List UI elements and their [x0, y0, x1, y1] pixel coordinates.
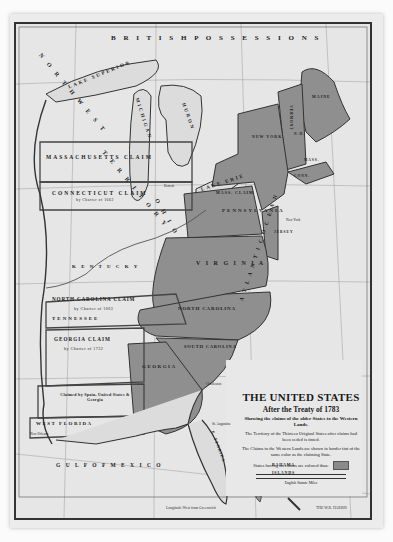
- label-massachusetts: MASS.: [304, 158, 320, 162]
- label-maine: MAINE: [312, 94, 331, 99]
- label-charleston: Charleston: [206, 382, 221, 386]
- legend-note-1: The Territory of the Thirteen Original S…: [242, 431, 360, 443]
- label-south-carolina: SOUTH CAROLINA: [184, 344, 237, 349]
- label-north-carolina: NORTH CAROLINA: [178, 306, 236, 311]
- label-detroit: Detroit: [164, 184, 174, 188]
- label-kentucky: K E N T U C K Y: [72, 264, 139, 269]
- label-gulf-of-mexico: G U L F O F M E X I C O: [56, 462, 163, 468]
- label-connecticut-claim: CONNECTICUT CLAIM: [52, 190, 147, 196]
- map-title: THE UNITED STATES: [242, 391, 360, 403]
- publisher-mark: THE W.R. HARRIS: [316, 506, 347, 510]
- label-connecticut: CONN.: [294, 174, 310, 178]
- map-legend: THE UNITED STATES After the Treaty of 17…: [242, 391, 360, 485]
- mississippi-river: [34, 100, 52, 444]
- label-connecticut-charter: by Charter of 1662: [76, 198, 114, 202]
- label-british-possessions: B R I T I S H P O S S E S S I O N S: [111, 34, 321, 42]
- scale-label: English Statute Miles: [242, 481, 360, 485]
- map-frame: B R I T I S H P O S S E S S I O N S LAKE…: [14, 22, 372, 520]
- label-west-florida: WEST FLORIDA: [36, 421, 93, 426]
- map-description: Showing the claims of the older States t…: [242, 416, 360, 428]
- scale-bar: [256, 474, 346, 479]
- label-massachusetts-claim: MASSACHUSETTS CLAIM: [46, 154, 153, 160]
- label-pennsylvania: PENNSYLVANIA: [222, 208, 285, 213]
- longitude-label: Longitude West from Greenwich: [166, 506, 216, 510]
- label-new-orleans: New Orleans: [30, 432, 48, 436]
- label-new-hampshire: N.H.: [294, 132, 305, 136]
- map-subtitle: After the Treaty of 1783: [242, 405, 360, 414]
- label-georgia: GEORGIA: [142, 364, 177, 369]
- label-claimed-by-spain: Claimed by Spain, United States & Georgi…: [60, 392, 130, 402]
- label-new-york-city: New York: [286, 218, 300, 222]
- label-vermont: VERMONT: [289, 105, 293, 130]
- label-north-carolina-claim: NORTH CAROLINA CLAIM: [52, 296, 135, 302]
- label-new-york: NEW YORK: [252, 134, 282, 139]
- legend-swatch-label: States having no claims are colored thus…: [253, 463, 328, 468]
- label-georgia-charter: by Charter of 1732: [64, 346, 103, 351]
- label-tennessee: TENNESSEE: [52, 316, 99, 321]
- label-st-augustine: St. Augustine: [212, 422, 231, 426]
- legend-note-2: The Claims to the Western Lands are show…: [242, 446, 360, 458]
- legend-swatch-row: States having no claims are colored thus…: [242, 461, 360, 470]
- label-georgia-claim: GEORGIA CLAIM: [54, 336, 111, 342]
- label-mass-claim-ny: MASS. CLAIM: [216, 190, 254, 195]
- label-new-jersey: JERSEY: [274, 230, 293, 234]
- label-nc-charter: by Charter of 1663: [74, 306, 113, 311]
- legend-swatch: [333, 461, 349, 470]
